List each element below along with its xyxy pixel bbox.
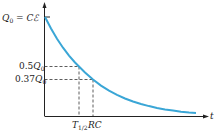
decay-curve-line — [45, 17, 196, 113]
rc-label: RC — [87, 120, 102, 130]
x-axis-arrow-icon — [203, 115, 209, 119]
discharge-diagram: Q0 = Cℰ 0.5Q0 0.37Q0 T1/2 RC t — [0, 0, 214, 136]
half-q0-label: 0.5Q0 — [19, 61, 45, 72]
q0-label: Q0 = Cℰ — [2, 13, 40, 24]
e-q0-label: 0.37Q0 — [15, 74, 46, 85]
thalf-label: T1/2 — [72, 120, 88, 131]
y-axis-arrow-icon — [43, 2, 47, 8]
t-axis-label: t — [210, 111, 214, 121]
